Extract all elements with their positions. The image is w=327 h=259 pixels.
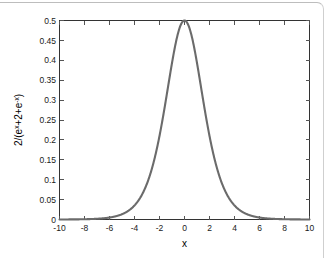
x-axis-tick-marks bbox=[60, 21, 310, 220]
y-tick-label: 0.5 bbox=[44, 16, 56, 26]
y-axis-tick-labels: 00.050.10.150.20.250.30.350.40.450.5 bbox=[39, 16, 56, 225]
y-tick-label: 0.05 bbox=[39, 195, 56, 205]
figure-root: 00.050.10.150.20.250.30.350.40.450.5 -10… bbox=[0, 0, 327, 259]
x-tick-label: 10 bbox=[305, 223, 315, 233]
x-tick-label: -2 bbox=[156, 223, 164, 233]
y-axis-title: 2/(ex+2+e-x) bbox=[13, 94, 24, 146]
y-axis-title-group: 2/(ex+2+e-x) bbox=[13, 94, 24, 146]
y-tick-label: 0.35 bbox=[39, 75, 56, 85]
x-tick-label: 0 bbox=[182, 223, 187, 233]
y-title-suffix: ) bbox=[13, 94, 24, 97]
x-tick-label: -10 bbox=[53, 223, 66, 233]
axes-box bbox=[60, 21, 310, 220]
x-tick-label: 6 bbox=[257, 223, 262, 233]
x-tick-label: 8 bbox=[282, 223, 287, 233]
x-tick-label: -6 bbox=[106, 223, 114, 233]
x-tick-label: 2 bbox=[207, 223, 212, 233]
y-tick-label: 0.45 bbox=[39, 36, 56, 46]
x-axis-title: x bbox=[182, 238, 187, 249]
y-tick-label: 0.1 bbox=[44, 175, 56, 185]
y-title-middle: +2+e bbox=[13, 102, 24, 125]
x-axis-tick-labels: -10-8-6-4-20246810 bbox=[53, 223, 314, 233]
y-tick-label: 0.2 bbox=[44, 135, 56, 145]
y-tick-label: 0.3 bbox=[44, 95, 56, 105]
y-tick-label: 0.25 bbox=[39, 115, 56, 125]
x-tick-label: -8 bbox=[81, 223, 89, 233]
y-axis-tick-marks bbox=[60, 21, 310, 220]
y-title-prefix: 2/(e bbox=[13, 128, 24, 146]
y-tick-label: 0.4 bbox=[44, 55, 56, 65]
y-tick-label: 0.15 bbox=[39, 155, 56, 165]
x-tick-label: 4 bbox=[232, 223, 237, 233]
data-curve-sech-squared bbox=[60, 21, 310, 220]
plot-canvas: 00.050.10.150.20.250.30.350.40.450.5 -10… bbox=[0, 0, 327, 259]
x-tick-label: -4 bbox=[131, 223, 139, 233]
